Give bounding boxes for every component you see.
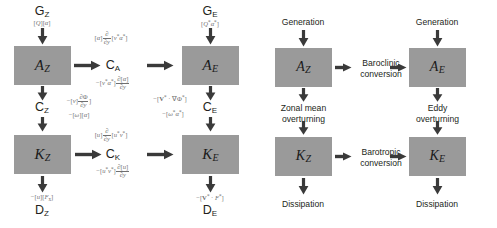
arrow-kz-to-barotropic xyxy=(335,151,352,162)
arrow-ge-to-ae xyxy=(205,28,216,45)
node-ce-symbol: C xyxy=(203,100,212,114)
box-ke-words-label: KE xyxy=(429,149,445,164)
box-ae-label: AE xyxy=(203,58,219,74)
arrow-ae-to-eddy xyxy=(432,88,443,102)
node-de-symbol: D xyxy=(203,203,212,217)
node-ce: CE xyxy=(197,100,223,116)
arrow-ke-to-de xyxy=(205,176,216,193)
formula-ca-top: [α]∂∂y[v*α*] xyxy=(80,31,142,46)
box-az-words-label: AZ xyxy=(296,60,311,75)
node-gz: GZ xyxy=(22,4,62,20)
arrow-ce-to-ke xyxy=(205,117,216,132)
arrow-baroclinic-to-ae xyxy=(390,62,407,73)
words-panel: Generation AZ Generation AE xyxy=(250,0,497,228)
label-eddy-line1: Eddy xyxy=(428,103,448,113)
node-de: DE xyxy=(190,203,230,219)
node-gz-subscript: Z xyxy=(44,10,49,19)
box-kz-words-label: KZ xyxy=(296,149,312,164)
box-az-words: AZ xyxy=(275,48,332,87)
node-ce-subscript: E xyxy=(212,106,217,115)
node-de-subscript: E xyxy=(212,209,217,218)
label-generation-z: Generation xyxy=(261,17,345,28)
lorenz-energy-cycle-figure: GZ [Q][α] AZ GE [Q*α*] xyxy=(0,0,497,228)
node-ca: CA xyxy=(100,58,126,74)
arrow-ca-to-ae xyxy=(147,60,174,71)
node-ck: CK xyxy=(100,147,126,163)
node-gz-symbol: G xyxy=(35,4,45,18)
box-ke: KE xyxy=(182,135,239,174)
box-kz-words: KZ xyxy=(275,137,332,176)
arrow-generation-to-az xyxy=(298,30,309,47)
box-kz-label: KZ xyxy=(34,147,50,163)
arrow-eddy-to-ke xyxy=(432,121,443,135)
arrow-az-to-zonal-mean xyxy=(298,88,309,102)
node-ca-symbol: C xyxy=(106,58,115,72)
label-dissipation-e: Dissipation xyxy=(395,199,479,210)
arrow-ae-to-ce xyxy=(205,86,216,101)
arrow-zonal-mean-to-kz xyxy=(298,121,309,135)
node-cz: CZ xyxy=(29,100,55,116)
box-ae-words-label: AE xyxy=(430,60,445,75)
arrow-ck-to-ke xyxy=(147,149,174,160)
formula-ce-top: −[V* · ∇Φ*] xyxy=(143,95,197,103)
label-dissipation-z: Dissipation xyxy=(261,199,345,210)
box-ke-words: KE xyxy=(409,137,466,176)
arrow-barotropic-to-ke xyxy=(390,151,407,162)
arrow-generation-to-ae xyxy=(432,30,443,47)
box-ke-label: KE xyxy=(202,147,219,163)
arrow-kz-to-dz xyxy=(37,176,48,193)
arrow-az-to-cz xyxy=(37,86,48,101)
node-dz-symbol: D xyxy=(35,203,44,217)
arrow-gz-to-az xyxy=(37,28,48,45)
arrow-az-to-ca xyxy=(74,60,101,71)
formula-ce-bottom: −[ω*α*] xyxy=(149,110,197,118)
formula-dz: −[u][Fx] xyxy=(22,194,62,202)
formula-cz-top: −[v]∂Φ∂y] xyxy=(55,94,103,109)
formula-gz: [Q][α] xyxy=(22,20,62,27)
node-cz-subscript: Z xyxy=(44,106,49,115)
arrow-kz-to-ck xyxy=(75,149,102,160)
box-ae: AE xyxy=(182,46,239,85)
box-az-label: AZ xyxy=(35,58,50,74)
math-panel: GZ [Q][α] AZ GE [Q*α*] xyxy=(0,0,250,228)
formula-ca-bottom: −[v*α*]∂[α]∂y xyxy=(79,76,147,91)
arrow-kz-to-dissipation xyxy=(298,178,309,195)
box-kz: KZ xyxy=(14,135,71,174)
node-ge: GE xyxy=(190,4,230,20)
formula-de: −[V* · F*] xyxy=(186,194,234,202)
node-cz-symbol: C xyxy=(35,100,44,114)
arrow-az-to-baroclinic xyxy=(335,62,352,73)
node-dz-subscript: Z xyxy=(44,209,49,218)
node-dz: DZ xyxy=(22,203,62,219)
formula-ck-top: [u]∂∂y[u*v*] xyxy=(80,128,142,143)
arrow-ke-to-dissipation xyxy=(432,178,443,195)
label-zonal-mean-line1: Zonal mean xyxy=(281,103,326,113)
formula-cz-bottom: −[ω][α] xyxy=(55,112,103,119)
node-ca-subscript: A xyxy=(115,64,120,73)
node-ck-subscript: K xyxy=(115,153,120,162)
box-ae-words: AE xyxy=(409,48,466,87)
box-az: AZ xyxy=(14,46,71,85)
formula-ge: [Q*α*] xyxy=(190,20,230,28)
node-ck-symbol: C xyxy=(106,147,115,161)
formula-ck-bottom: −[u*v*]∂[u]∂y xyxy=(79,164,147,179)
arrow-cz-to-kz xyxy=(37,117,48,132)
node-ge-subscript: E xyxy=(212,10,217,19)
node-ge-symbol: G xyxy=(202,4,212,18)
label-generation-e: Generation xyxy=(395,17,479,28)
